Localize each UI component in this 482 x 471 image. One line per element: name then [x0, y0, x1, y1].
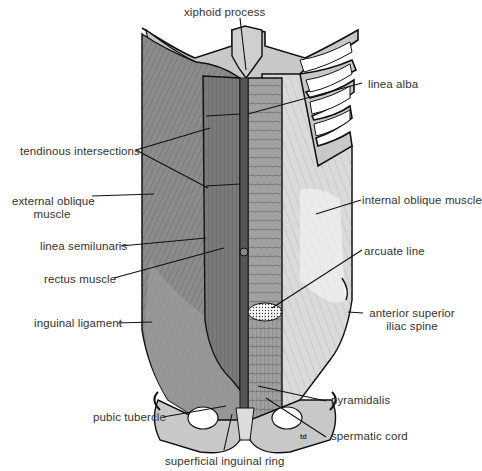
linea-alba	[240, 78, 248, 420]
label-tendinous-intersections: tendinous intersections	[20, 145, 140, 158]
label-inguinal-ligament: inguinal ligament	[34, 317, 122, 330]
label-asis-line2: iliac spine	[362, 320, 462, 333]
label-xiphoid-process: xiphoid process	[184, 6, 265, 19]
label-anterior-superior-iliac-spine: anterior superior iliac spine	[362, 307, 462, 333]
label-rectus-muscle: rectus muscle	[44, 273, 116, 286]
label-pubic-tubercle: pubic tubercle	[93, 411, 166, 424]
label-asis-line1: anterior superior	[362, 307, 462, 320]
label-external-oblique-line2: muscle	[12, 208, 92, 221]
label-linea-semilunaris: linea semilunaris	[40, 240, 127, 253]
label-pyramidalis: pyramidalis	[331, 394, 390, 407]
label-linea-alba: linea alba	[368, 78, 418, 91]
label-external-oblique-muscle: external oblique muscle	[12, 195, 92, 221]
label-superficial-inguinal-ring: superficial inguinal ring	[165, 455, 284, 468]
rectus-sheath	[248, 78, 282, 425]
artist-signature: td	[300, 430, 307, 443]
label-arcuate-line: arcuate line	[364, 245, 425, 258]
label-spermatic-cord: spermatic cord	[331, 430, 408, 443]
label-internal-oblique-muscle: internal oblique muscle	[362, 194, 482, 207]
label-external-oblique-line1: external oblique	[12, 195, 92, 208]
